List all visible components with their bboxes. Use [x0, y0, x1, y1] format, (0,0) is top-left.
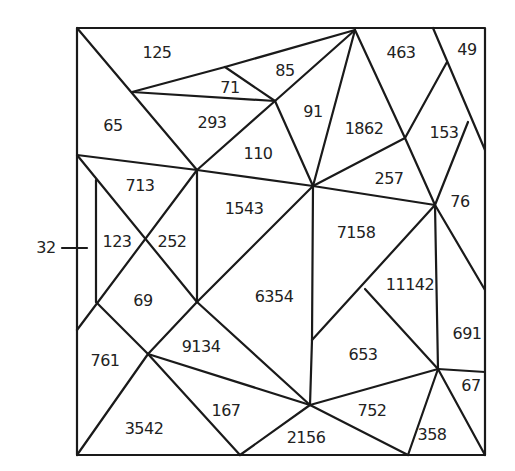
- region-value-257: 257: [374, 169, 403, 188]
- region-value-11142: 11142: [386, 275, 434, 294]
- region-value-7158: 7158: [337, 223, 376, 242]
- region-value-358: 358: [417, 425, 446, 444]
- region-value-252: 252: [157, 232, 186, 251]
- region-value-67: 67: [461, 376, 480, 395]
- region-value-76: 76: [450, 192, 469, 211]
- region-value-71: 71: [220, 78, 239, 97]
- region-value-293: 293: [197, 113, 226, 132]
- region-value-69: 69: [133, 291, 152, 310]
- region-value-123: 123: [102, 232, 131, 251]
- region-value-653: 653: [348, 345, 377, 364]
- region-value-125: 125: [142, 43, 171, 62]
- region-value-49: 49: [457, 40, 476, 59]
- region-value-91: 91: [303, 102, 322, 121]
- region-value-752: 752: [357, 401, 386, 420]
- region-value-761: 761: [90, 351, 119, 370]
- region-value-1862: 1862: [345, 119, 384, 138]
- region-value-6354: 6354: [255, 287, 294, 306]
- region-value-3542: 3542: [125, 419, 164, 438]
- region-value-65: 65: [103, 116, 122, 135]
- triangulation-diagram: [0, 0, 515, 471]
- region-value-110: 110: [243, 144, 272, 163]
- region-value-85: 85: [275, 61, 294, 80]
- region-value-153: 153: [429, 123, 458, 142]
- region-value-691: 691: [452, 324, 481, 343]
- region-value-167: 167: [211, 401, 240, 420]
- region-value-1543: 1543: [225, 199, 264, 218]
- region-value-2156: 2156: [287, 428, 326, 447]
- region-value-463: 463: [386, 43, 415, 62]
- region-value-9134: 9134: [182, 337, 221, 356]
- region-value-713: 713: [125, 176, 154, 195]
- side-label: 32: [36, 238, 55, 257]
